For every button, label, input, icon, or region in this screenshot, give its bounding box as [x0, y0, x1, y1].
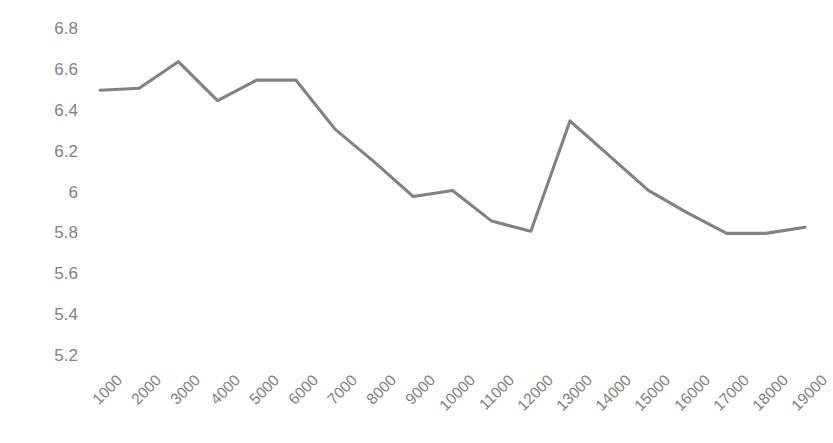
- series-line: [100, 62, 805, 234]
- series-lines: [100, 62, 805, 234]
- line-chart: 6.86.66.46.265.85.65.45.2 10002000300040…: [0, 0, 833, 443]
- plot-area: [0, 0, 833, 443]
